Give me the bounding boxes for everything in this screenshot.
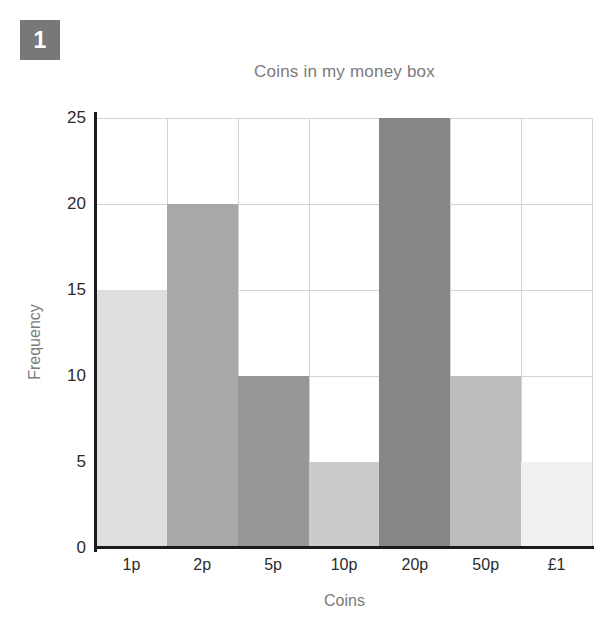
x-tick-label-2p: 2p: [167, 556, 238, 574]
y-tick-label-15: 15: [46, 280, 86, 300]
x-tick-label-£1: £1: [521, 556, 592, 574]
bar-5p: [238, 376, 309, 548]
x-tick-label-20p: 20p: [379, 556, 450, 574]
bar-10p: [309, 462, 380, 548]
x-axis-title: Coins: [96, 592, 593, 610]
y-tick-label-0: 0: [46, 538, 86, 558]
y-tick-label-10: 10: [46, 366, 86, 386]
bar-20p: [379, 118, 450, 548]
x-tick-label-1p: 1p: [96, 556, 167, 574]
bar-£1: [521, 462, 592, 548]
bar-1p: [96, 290, 167, 548]
y-tick-label-5: 5: [46, 452, 86, 472]
x-tick-label-50p: 50p: [450, 556, 521, 574]
x-tick-label-10p: 10p: [309, 556, 380, 574]
y-tick-label-25: 25: [46, 108, 86, 128]
bars-layer: [96, 118, 592, 548]
y-axis-title: Frequency: [26, 282, 44, 402]
bar-2p: [167, 204, 238, 548]
y-tick-label-20: 20: [46, 194, 86, 214]
x-axis-line: [94, 546, 594, 549]
plot-area: [96, 118, 592, 548]
y-axis-tick-labels: 0510152025: [40, 0, 86, 629]
gridline-v-7: [592, 118, 593, 548]
y-axis-line: [94, 112, 97, 552]
bar-50p: [450, 376, 521, 548]
bar-chart-figure: Coins in my money box 0510152025 1p2p5p1…: [0, 0, 611, 629]
x-tick-label-5p: 5p: [238, 556, 309, 574]
chart-title: Coins in my money box: [96, 62, 593, 82]
